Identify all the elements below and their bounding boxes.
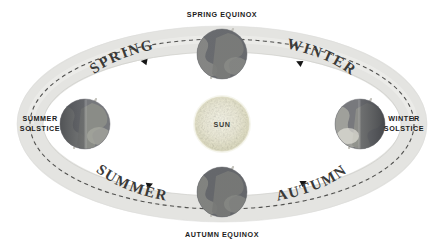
label-winter-solstice-line2: SOLSTICE <box>384 124 424 133</box>
earth-winter-solstice <box>331 99 385 154</box>
label-winter-solstice-line1: WINTER <box>388 114 420 123</box>
label-spring-equinox: SPRING EQUINOX <box>187 10 257 19</box>
earth-summer-solstice <box>56 99 111 154</box>
seasons-diagram: SUN <box>0 0 444 248</box>
sun: SUN <box>193 95 251 153</box>
diagram-canvas: SUN <box>0 0 444 248</box>
label-summer-solstice-line1: SUMMER <box>22 114 58 123</box>
sun-label: SUN <box>214 120 231 129</box>
label-summer-solstice-line2: SOLSTICE <box>20 124 60 133</box>
label-autumn-equinox: AUTUMN EQUINOX <box>185 230 259 239</box>
